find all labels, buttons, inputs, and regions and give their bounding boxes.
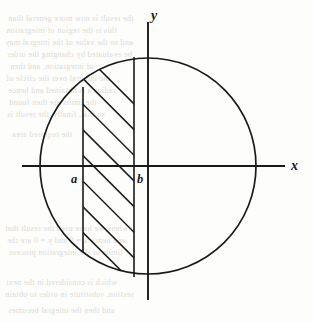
x-axis-label: x: [291, 158, 298, 174]
geometry-figure: [0, 0, 313, 322]
hatch-line: [69, 244, 148, 322]
hatch-line: [69, 193, 148, 272]
y-axis-label: y: [151, 8, 157, 24]
figure-container: the result is now more general thanthis …: [0, 0, 313, 322]
hatch-line: [69, 65, 148, 144]
hatch-line: [69, 90, 148, 169]
hatch-line: [69, 39, 148, 118]
label-point-a: a: [71, 172, 77, 187]
hatch-line: [69, 219, 148, 298]
label-point-b: b: [137, 172, 143, 187]
